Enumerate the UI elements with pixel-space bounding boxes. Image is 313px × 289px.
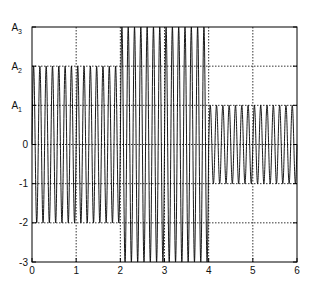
x-tick-label: 6 [294,265,300,276]
y-tick-label: A3 [11,22,22,35]
x-tick-label: 5 [250,265,256,276]
x-tick-label: 2 [118,265,124,276]
y-tick-label: A2 [11,61,22,74]
y-tick-label: A1 [11,100,22,113]
y-tick-label: 0 [22,139,28,150]
y-tick-label: -3 [19,257,28,268]
x-tick-label: 1 [73,265,79,276]
y-tick-label: -2 [19,217,28,228]
chart: A3A2A10-1-2-3 0123456 [0,0,313,289]
x-tick-label: 4 [206,265,212,276]
x-tick-label: 3 [162,265,168,276]
y-tick-label: -1 [19,178,28,189]
x-tick-label: 0 [29,265,35,276]
